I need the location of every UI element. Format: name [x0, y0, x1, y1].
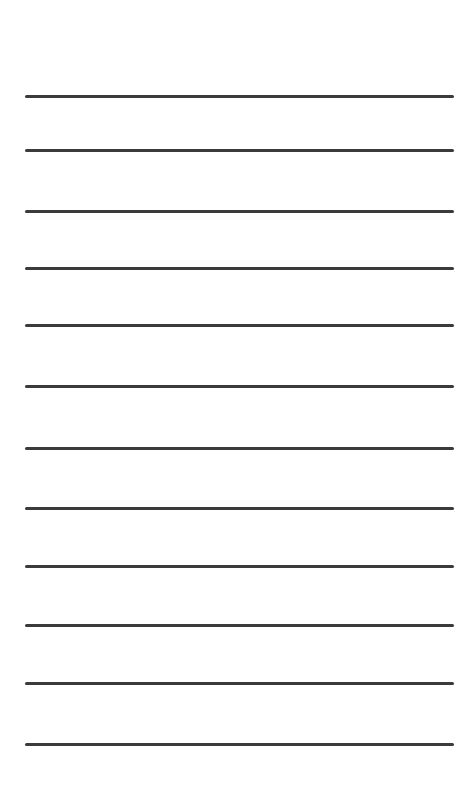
ruled-line-11	[25, 682, 454, 685]
ruled-line-10	[25, 624, 454, 627]
ruled-line-8	[25, 507, 454, 510]
ruled-line-4	[25, 267, 454, 270]
ruled-line-1	[25, 95, 454, 98]
ruled-line-5	[25, 324, 454, 327]
ruled-line-3	[25, 210, 454, 213]
ruled-line-6	[25, 385, 454, 388]
ruled-line-9	[25, 565, 454, 568]
ruled-line-2	[25, 149, 454, 152]
ruled-line-12	[25, 743, 454, 746]
lined-paper-page	[0, 0, 471, 791]
ruled-line-7	[25, 447, 454, 450]
